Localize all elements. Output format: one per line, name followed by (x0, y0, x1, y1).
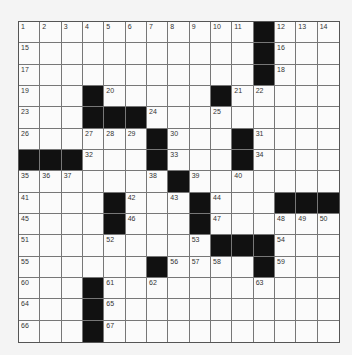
answer-square[interactable]: 40 (232, 171, 253, 192)
answer-square[interactable] (190, 43, 211, 64)
answer-square[interactable]: 21 (232, 86, 253, 107)
answer-square[interactable] (296, 107, 317, 128)
answer-square[interactable]: 50 (318, 214, 339, 235)
answer-square[interactable] (83, 257, 104, 278)
answer-square[interactable] (318, 321, 339, 342)
answer-square[interactable]: 29 (126, 129, 147, 150)
answer-square[interactable] (211, 321, 232, 342)
answer-square[interactable] (40, 43, 61, 64)
answer-square[interactable] (147, 321, 168, 342)
answer-square[interactable]: 2 (40, 22, 61, 43)
answer-square[interactable]: 44 (211, 193, 232, 214)
answer-square[interactable] (296, 299, 317, 320)
answer-square[interactable] (190, 107, 211, 128)
answer-square[interactable] (232, 299, 253, 320)
answer-square[interactable] (296, 257, 317, 278)
answer-square[interactable] (62, 43, 83, 64)
answer-square[interactable] (62, 235, 83, 256)
answer-square[interactable] (126, 235, 147, 256)
answer-square[interactable] (126, 278, 147, 299)
answer-square[interactable]: 34 (254, 150, 275, 171)
answer-square[interactable] (168, 214, 189, 235)
answer-square[interactable] (40, 86, 61, 107)
answer-square[interactable] (62, 193, 83, 214)
answer-square[interactable] (40, 193, 61, 214)
answer-square[interactable] (296, 43, 317, 64)
answer-square[interactable] (62, 65, 83, 86)
answer-square[interactable] (104, 65, 125, 86)
answer-square[interactable] (254, 193, 275, 214)
answer-square[interactable]: 41 (19, 193, 40, 214)
answer-square[interactable] (83, 65, 104, 86)
answer-square[interactable]: 37 (62, 171, 83, 192)
answer-square[interactable]: 48 (275, 214, 296, 235)
answer-square[interactable]: 38 (147, 171, 168, 192)
answer-square[interactable] (126, 257, 147, 278)
answer-square[interactable]: 15 (19, 43, 40, 64)
answer-square[interactable]: 51 (19, 235, 40, 256)
answer-square[interactable] (318, 299, 339, 320)
answer-square[interactable] (296, 65, 317, 86)
answer-square[interactable] (147, 193, 168, 214)
answer-square[interactable]: 49 (296, 214, 317, 235)
answer-square[interactable] (40, 214, 61, 235)
answer-square[interactable] (40, 65, 61, 86)
answer-square[interactable]: 17 (19, 65, 40, 86)
answer-square[interactable] (126, 43, 147, 64)
answer-square[interactable] (168, 235, 189, 256)
answer-square[interactable] (190, 321, 211, 342)
answer-square[interactable]: 58 (211, 257, 232, 278)
answer-square[interactable] (168, 299, 189, 320)
answer-square[interactable]: 46 (126, 214, 147, 235)
answer-square[interactable]: 6 (126, 22, 147, 43)
answer-square[interactable]: 26 (19, 129, 40, 150)
answer-square[interactable] (40, 257, 61, 278)
answer-square[interactable]: 67 (104, 321, 125, 342)
answer-square[interactable] (83, 171, 104, 192)
answer-square[interactable]: 60 (19, 278, 40, 299)
answer-square[interactable] (62, 321, 83, 342)
answer-square[interactable] (62, 257, 83, 278)
answer-square[interactable] (232, 321, 253, 342)
answer-square[interactable] (40, 299, 61, 320)
answer-square[interactable] (168, 86, 189, 107)
answer-square[interactable] (318, 257, 339, 278)
answer-square[interactable] (275, 321, 296, 342)
answer-square[interactable] (126, 86, 147, 107)
answer-square[interactable]: 10 (211, 22, 232, 43)
answer-square[interactable]: 3 (62, 22, 83, 43)
answer-square[interactable] (40, 278, 61, 299)
answer-square[interactable]: 7 (147, 22, 168, 43)
answer-square[interactable] (168, 278, 189, 299)
answer-square[interactable] (126, 321, 147, 342)
answer-square[interactable] (232, 257, 253, 278)
answer-square[interactable] (190, 299, 211, 320)
answer-square[interactable]: 19 (19, 86, 40, 107)
answer-square[interactable]: 4 (83, 22, 104, 43)
answer-square[interactable]: 57 (190, 257, 211, 278)
answer-square[interactable] (296, 129, 317, 150)
answer-square[interactable] (296, 278, 317, 299)
answer-square[interactable]: 28 (104, 129, 125, 150)
answer-square[interactable] (168, 321, 189, 342)
answer-square[interactable] (232, 65, 253, 86)
answer-square[interactable] (232, 193, 253, 214)
answer-square[interactable]: 59 (275, 257, 296, 278)
answer-square[interactable] (254, 299, 275, 320)
answer-square[interactable] (275, 150, 296, 171)
answer-square[interactable]: 16 (275, 43, 296, 64)
answer-square[interactable] (211, 278, 232, 299)
answer-square[interactable]: 22 (254, 86, 275, 107)
answer-square[interactable] (318, 65, 339, 86)
answer-square[interactable] (254, 107, 275, 128)
answer-square[interactable] (104, 150, 125, 171)
answer-square[interactable] (147, 65, 168, 86)
answer-square[interactable]: 55 (19, 257, 40, 278)
answer-square[interactable]: 54 (275, 235, 296, 256)
answer-square[interactable] (62, 214, 83, 235)
answer-square[interactable] (211, 171, 232, 192)
answer-square[interactable] (254, 171, 275, 192)
answer-square[interactable]: 65 (104, 299, 125, 320)
answer-square[interactable]: 11 (232, 22, 253, 43)
answer-square[interactable]: 36 (40, 171, 61, 192)
